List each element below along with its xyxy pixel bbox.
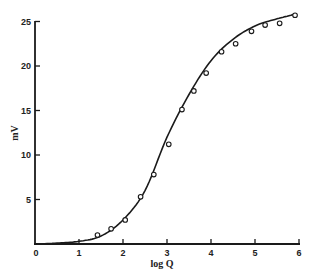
data-point (152, 172, 157, 177)
x-tick-label: 2 (120, 248, 125, 258)
data-point (204, 71, 209, 76)
data-point (109, 227, 114, 232)
data-point (219, 49, 224, 54)
x-tick-label: 0 (33, 248, 38, 258)
x-tick-label: 1 (76, 248, 81, 258)
x-axis-label: log Q (150, 258, 173, 269)
x-tick-label: 5 (252, 248, 257, 258)
y-tick-label: 15 (21, 106, 31, 116)
y-tick-label: 25 (21, 17, 31, 27)
data-point (166, 142, 171, 147)
y-axis-label: mV (9, 124, 20, 140)
y-tick-label: 20 (21, 61, 31, 71)
data-points (95, 13, 297, 237)
data-point (180, 107, 185, 112)
data-point (277, 21, 282, 26)
x-tick-label: 4 (208, 248, 213, 258)
y-ticks: 510152025 (21, 17, 40, 205)
axes (34, 21, 300, 244)
data-point (293, 13, 298, 18)
fitted-curve (35, 14, 295, 244)
x-tick-label: 3 (164, 248, 169, 258)
y-tick-label: 5 (26, 195, 31, 205)
data-point (249, 29, 254, 34)
data-point (233, 41, 238, 46)
y-tick-label: 10 (21, 150, 31, 160)
data-point (192, 89, 197, 94)
data-point (263, 23, 268, 28)
x-tick-label: 6 (296, 248, 301, 258)
chart: 0123456 510152025 log Q mV (0, 0, 313, 278)
data-point (95, 233, 100, 238)
data-point (123, 218, 128, 223)
data-point (138, 195, 143, 200)
